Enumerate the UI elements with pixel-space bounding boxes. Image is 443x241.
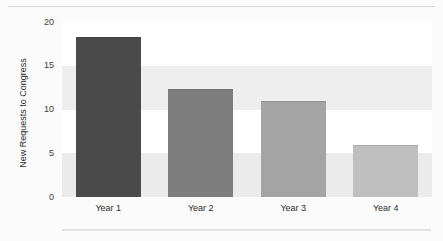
bar-year-3	[261, 101, 326, 197]
plot-area	[62, 22, 432, 197]
x-axis-baseline	[62, 197, 432, 198]
figure-bottom-rule	[62, 229, 431, 231]
y-tick-label-10: 10	[30, 105, 54, 114]
x-tick-label-year-1: Year 1	[62, 204, 155, 213]
y-tick-label-5: 5	[30, 149, 54, 158]
y-tick-label-20: 20	[30, 18, 54, 27]
x-tick-label-year-3: Year 3	[247, 204, 340, 213]
bar-chart-figure: New Requests to Congress 0 5 10 15 20 Ye…	[0, 0, 443, 241]
bar-year-1	[76, 37, 141, 197]
y-tick-label-0: 0	[30, 193, 54, 202]
x-tick-label-year-2: Year 2	[155, 204, 248, 213]
figure-top-rule	[8, 6, 435, 7]
y-tick-label-15: 15	[30, 61, 54, 70]
bar-year-2	[168, 89, 233, 198]
y-axis-title: New Requests to Congress	[18, 43, 28, 183]
x-tick-label-year-4: Year 4	[340, 204, 433, 213]
bar-year-4	[353, 145, 418, 198]
